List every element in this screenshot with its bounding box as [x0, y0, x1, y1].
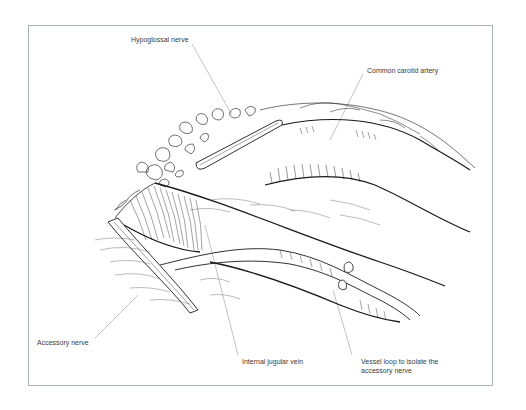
accessory-nerve-stump	[108, 218, 198, 313]
label-vessel-loop: Vessel loop to isolate the accessory ner…	[361, 357, 461, 375]
label-common-carotid-artery: Common carotid artery	[367, 66, 438, 75]
leader-lines	[95, 44, 363, 355]
label-hypoglossal-nerve: Hypoglossal nerve	[131, 35, 189, 44]
sternocleidomastoid-contour	[265, 164, 470, 232]
hypoglossal-nerve	[196, 120, 282, 169]
common-carotid-artery	[260, 103, 475, 170]
accessory-nerve-course	[160, 249, 420, 322]
label-accessory-nerve: Accessory nerve	[37, 338, 89, 347]
fat-lobules	[114, 106, 255, 210]
label-internal-jugular-vein: Internal jugular vein	[242, 357, 303, 366]
neck-dissection-illustration	[0, 0, 526, 410]
